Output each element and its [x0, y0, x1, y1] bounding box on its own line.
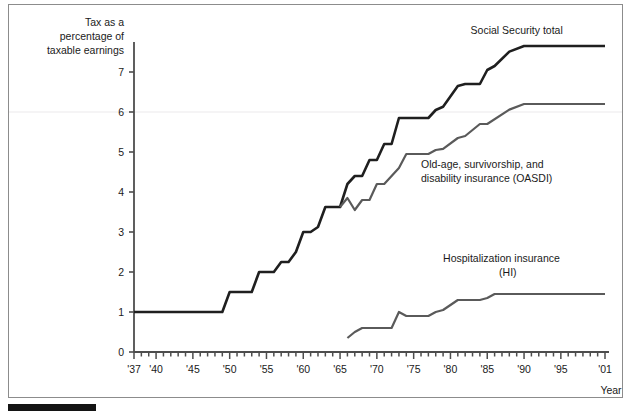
footer-rule-bar	[8, 404, 96, 411]
series-lines-group	[134, 46, 605, 338]
x-tick-label-1940: '40	[149, 363, 163, 375]
y-tick-label-0: 0	[118, 346, 124, 358]
y-tick-label-5: 5	[118, 146, 124, 158]
y-tick-label-3: 3	[118, 226, 124, 238]
x-tick-label-1965: '65	[333, 363, 347, 375]
x-tick-label-1960: '60	[296, 363, 310, 375]
x-tick-label-1970: '70	[370, 363, 384, 375]
series-label-social-security-total: Social Security total	[471, 24, 563, 36]
y-axis-title-line3: taxable earnings	[47, 44, 124, 56]
y-axis-title-line1: Tax as a	[85, 16, 124, 28]
x-axis-title: Year	[600, 384, 622, 396]
y-tick-label-1: 1	[118, 306, 124, 318]
series-line-hospitalization-insurance-hi	[347, 294, 605, 338]
y-axis-title-line2: percentage of	[60, 30, 124, 42]
x-tick-label-1995: '95	[554, 363, 568, 375]
series-label-hi-line1: Hospitalization insurance	[443, 252, 560, 264]
y-tick-label-6: 6	[118, 106, 124, 118]
y-tick-label-4: 4	[118, 186, 124, 198]
x-tick-label-2001: '01	[598, 363, 612, 375]
x-tick-label-1985: '85	[480, 363, 494, 375]
tax-rate-line-chart: 01234567 '37'40'45'50'55'60'65'70'75'80'…	[9, 5, 622, 397]
series-label-oasdi-line2: disability insurance (OASDI)	[421, 172, 552, 184]
x-tick-label-1980: '80	[444, 363, 458, 375]
series-label-oasdi-line1: Old-age, survivorship, and	[421, 158, 544, 170]
series-line-old-age-survivorship-and-disability-insurance-oasdi	[340, 104, 605, 210]
x-axis: '37'40'45'50'55'60'65'70'75'80'85'90'95'…	[127, 352, 612, 375]
x-tick-label-1950: '50	[223, 363, 237, 375]
y-tick-label-2: 2	[118, 266, 124, 278]
series-annotations-group: Social Security totalOld-age, survivorsh…	[421, 24, 563, 278]
series-label-hi-line2: (HI)	[499, 266, 517, 278]
x-tick-label-1945: '45	[186, 363, 200, 375]
y-tick-label-7: 7	[118, 66, 124, 78]
x-tick-label-1990: '90	[517, 363, 531, 375]
chart-figure-frame: 01234567 '37'40'45'50'55'60'65'70'75'80'…	[8, 4, 623, 398]
x-tick-label-1937: '37	[127, 363, 141, 375]
x-tick-label-1975: '75	[407, 363, 421, 375]
chart-canvas: 01234567 '37'40'45'50'55'60'65'70'75'80'…	[9, 5, 622, 397]
y-axis: 01234567	[118, 42, 134, 358]
x-tick-label-1955: '55	[260, 363, 274, 375]
